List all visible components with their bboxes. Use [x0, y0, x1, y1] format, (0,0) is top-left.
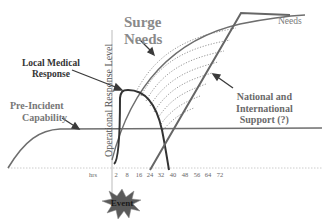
x-tick: 24 [147, 171, 154, 178]
x-tick: 2 [114, 171, 117, 178]
pre-incident-capability-label: Pre-Incident Capability [10, 100, 67, 123]
x-tick: 64 [205, 171, 212, 178]
x-tick: 32 [158, 171, 165, 178]
local-label-line2: Response [22, 69, 80, 80]
annotation-arrows [62, 40, 233, 129]
pre-label-line2: Capability [10, 112, 67, 124]
needs-label: Needs [278, 16, 302, 27]
x-tick: 72 [217, 171, 224, 178]
x-axis-unit: hrs [89, 171, 97, 178]
x-tick: 56 [194, 171, 201, 178]
surge-needs-label-line2: Needs [124, 31, 162, 48]
event-label: Event [102, 198, 142, 208]
local-medical-response-label: Local Medical Response [22, 58, 80, 80]
national-support-label: National and International Support (?) [236, 91, 293, 126]
x-tick: 48 [182, 171, 189, 178]
natl-label-line2: International [236, 103, 293, 115]
local-label-line1: Local Medical [22, 58, 80, 69]
x-tick: 16 [136, 171, 143, 178]
natl-label-line1: National and [236, 91, 293, 103]
surge-needs-label: Surge Needs [124, 14, 162, 49]
y-axis-label: Operational Response Level [103, 44, 114, 157]
surge-needs-label-line1: Surge [124, 14, 162, 31]
natl-label-line3: Support (?) [236, 114, 293, 126]
pre-label-line1: Pre-Incident [10, 100, 67, 112]
x-tick: 40 [170, 171, 177, 178]
x-tick: 8 [125, 171, 128, 178]
